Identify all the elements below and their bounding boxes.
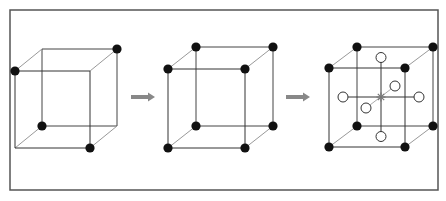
corner-atom-front-top-left — [324, 63, 333, 72]
corner-atom-back-top-right — [112, 44, 121, 53]
corner-atom-back-top-right — [428, 42, 437, 51]
corner-atom-back-top-right — [268, 42, 277, 51]
corner-atom-back-bottom-left — [352, 121, 361, 130]
face-atom-front — [361, 103, 371, 113]
corner-atom-back-bottom-left — [37, 121, 46, 130]
corner-atom-front-bottom-left — [163, 143, 172, 152]
face-atom-left — [338, 92, 348, 102]
corner-atom-front-top-right — [400, 63, 409, 72]
corner-atom-front-bottom-left — [324, 142, 333, 151]
corner-atom-front-top-left — [10, 66, 19, 75]
corner-atom-front-bottom-right — [85, 143, 94, 152]
corner-atom-front-top-right — [240, 64, 249, 73]
corner-atom-back-bottom-left — [191, 121, 200, 130]
corner-atom-back-bottom-right — [268, 121, 277, 130]
face-atom-top — [376, 53, 386, 63]
corner-atom-front-top-left — [163, 64, 172, 73]
corner-atom-back-top-left — [191, 42, 200, 51]
face-atom-back — [390, 81, 400, 91]
corner-atom-front-bottom-right — [400, 142, 409, 151]
face-atom-right — [414, 92, 424, 102]
figure-frame — [10, 10, 438, 190]
corner-atom-back-bottom-right — [428, 121, 437, 130]
crystal-structure-diagram — [0, 0, 446, 201]
center-star-icon — [377, 93, 386, 102]
arrow-shaft — [286, 95, 304, 99]
face-atom-bottom — [376, 132, 386, 142]
corner-atom-front-bottom-right — [240, 143, 249, 152]
arrow-shaft — [131, 95, 149, 99]
corner-atom-back-top-left — [352, 42, 361, 51]
diagram-stage — [0, 0, 446, 201]
